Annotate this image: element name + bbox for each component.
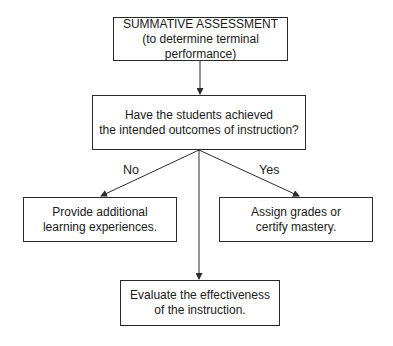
summative-assessment-box: SUMMATIVE ASSESSMENT (to determine termi… [113, 17, 288, 61]
yes-branch-line1: Assign grades or [251, 205, 341, 220]
arrow-question-to-no [101, 150, 199, 196]
additional-learning-box: Provide additional learning experiences. [23, 197, 177, 242]
evaluate-effectiveness-box: Evaluate the effectiveness of the instru… [120, 280, 280, 326]
summative-line1: SUMMATIVE ASSESSMENT [123, 17, 278, 32]
decision-question-box: Have the students achieved the intended … [92, 95, 306, 150]
no-label: No [123, 163, 139, 177]
yes-branch-line2: certify mastery. [256, 220, 336, 235]
evaluate-line2: of the instruction. [154, 303, 245, 318]
yes-label: Yes [259, 163, 279, 177]
question-line1: Have the students achieved [125, 108, 273, 123]
question-line2: the intended outcomes of instruction? [99, 123, 298, 138]
no-branch-line1: Provide additional [52, 205, 147, 220]
evaluate-line1: Evaluate the effectiveness [130, 288, 270, 303]
summative-line2: (to determine terminal performance) [114, 32, 287, 62]
arrow-question-to-yes [199, 150, 299, 196]
assign-grades-box: Assign grades or certify mastery. [219, 197, 373, 242]
no-branch-line2: learning experiences. [43, 220, 157, 235]
